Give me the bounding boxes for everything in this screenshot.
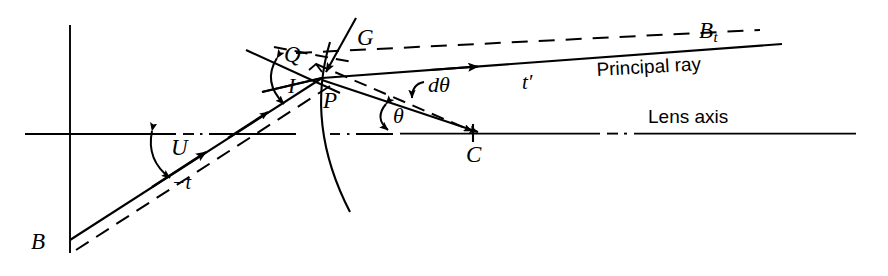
surface-normal-G xyxy=(326,18,356,72)
optics-ray-diagram: B −t U I Q P G θ dθ C t′ Principal ray B… xyxy=(0,0,888,276)
label-Bt: Bt xyxy=(699,19,718,44)
bt-sub: t xyxy=(713,28,718,45)
label-Q: Q xyxy=(284,43,301,66)
label-C: C xyxy=(466,143,481,166)
label-lens-axis: Lens axis xyxy=(648,107,728,126)
bt-base: B xyxy=(699,18,713,43)
t-prime-mark: ′ xyxy=(528,70,533,94)
incident-ray xyxy=(70,78,322,240)
diagram-canvas xyxy=(0,0,888,276)
dtheta-d: d xyxy=(428,72,439,97)
label-P: P xyxy=(323,89,337,112)
object-distance-construction-line xyxy=(76,86,330,250)
angle-U-marker xyxy=(151,131,170,178)
label-angle-dtheta: dθ xyxy=(428,74,450,96)
angle-theta-marker xyxy=(380,104,388,130)
label-image-distance-t-prime: t′ xyxy=(522,72,532,93)
angle-dtheta-marker xyxy=(412,82,424,98)
label-object-distance-minus-t: −t xyxy=(172,172,191,192)
label-angle-I: I xyxy=(288,75,295,97)
label-angle-U: U xyxy=(171,136,188,159)
label-G: G xyxy=(357,26,374,49)
label-angle-theta: θ xyxy=(393,105,404,127)
label-B: B xyxy=(31,230,45,253)
dtheta-theta: θ xyxy=(439,72,450,97)
